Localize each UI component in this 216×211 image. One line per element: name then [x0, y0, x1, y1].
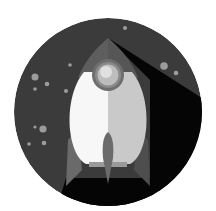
- star-dot: [27, 142, 31, 146]
- star-dot: [32, 74, 39, 81]
- star-dot: [45, 82, 50, 87]
- star-dot: [123, 26, 127, 30]
- star-dot: [174, 71, 179, 76]
- star-dot: [33, 125, 36, 128]
- rocket-illustration: [0, 0, 216, 211]
- star-dot: [33, 87, 37, 91]
- star-dot: [64, 89, 68, 93]
- window-highlight: [100, 66, 112, 78]
- star-dot: [160, 62, 168, 70]
- star-dot: [42, 141, 47, 146]
- star-dot: [68, 63, 72, 67]
- star-dot: [39, 125, 46, 132]
